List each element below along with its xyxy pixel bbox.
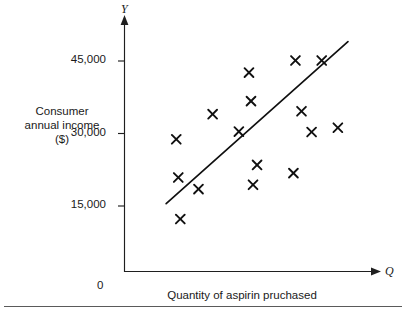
data-point-x-icon [307, 128, 316, 137]
data-point-x-icon [234, 127, 243, 136]
data-point-x-icon [289, 169, 298, 178]
trend-line [166, 42, 348, 204]
data-point-x-icon [291, 56, 300, 65]
data-point-x-icon [194, 185, 203, 194]
x-axis-arrow-icon [371, 268, 381, 276]
data-point-x-icon [174, 173, 183, 182]
x-axis-title: Quantity of aspirin pruchased [112, 288, 372, 302]
y-tick-label: 15,000 [20, 198, 106, 210]
y-axis-variable-label: Y [121, 2, 128, 17]
scatter-plot-figure: Consumerannual income($) Quantity of asp… [0, 0, 406, 315]
data-point-x-icon [172, 135, 181, 144]
data-point-x-icon [249, 180, 258, 189]
data-point-x-icon [245, 68, 254, 77]
y-tick-label: 30,000 [20, 126, 106, 138]
data-point-x-icon [333, 123, 342, 132]
data-point-x-icon [176, 215, 185, 224]
y-axis [121, 15, 129, 272]
x-axis [125, 268, 382, 276]
data-point-x-icon [253, 161, 262, 170]
data-point-x-icon [208, 110, 217, 119]
data-point-x-icon [317, 56, 326, 65]
data-point-markers [172, 56, 342, 223]
data-point-x-icon [297, 107, 306, 116]
y-axis-tick-labels: 15,00030,00045,000 [20, 0, 106, 315]
y-tick-label: 45,000 [20, 53, 106, 65]
x-axis-variable-label: Q [385, 264, 394, 279]
data-point-x-icon [247, 97, 256, 106]
